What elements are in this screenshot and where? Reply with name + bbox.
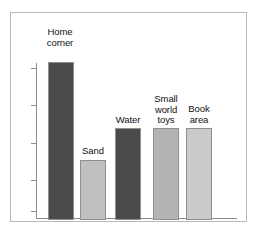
bar-label: Sand — [67, 146, 119, 157]
chart-frame: Home cornerSandWaterSmall world toysBook… — [10, 12, 247, 222]
bar — [48, 62, 74, 220]
y-axis-tick — [31, 105, 37, 106]
y-axis-tick — [31, 211, 37, 212]
y-axis-tick — [31, 143, 37, 144]
bar-label: Home corner — [34, 27, 86, 48]
bar — [186, 128, 212, 220]
bar — [115, 128, 141, 220]
bar-chart-figure: Home cornerSandWaterSmall world toysBook… — [0, 0, 259, 232]
y-axis-line — [36, 63, 37, 219]
plot-area: Home cornerSandWaterSmall world toysBook… — [36, 59, 245, 221]
bar — [80, 160, 106, 220]
y-axis-tick — [31, 68, 37, 69]
bar — [153, 128, 179, 220]
bar-label: Book area — [173, 104, 225, 125]
y-axis-tick — [31, 180, 37, 181]
